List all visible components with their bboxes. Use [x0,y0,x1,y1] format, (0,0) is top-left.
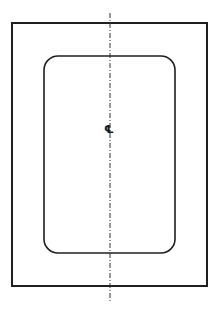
centerline-symbol: ℄ [104,124,114,135]
drawing-svg [0,0,218,310]
drawing-canvas: ℄ [0,0,218,310]
